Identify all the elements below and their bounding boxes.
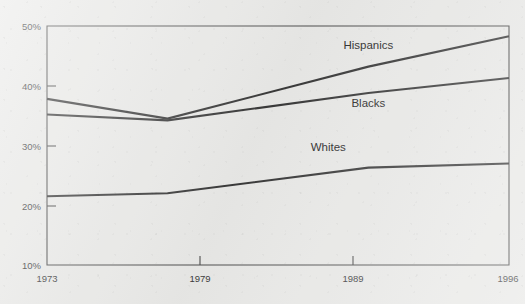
line-chart-figure: 50% 40% 30% 20% 10% 1973 1979 1989 1996 … [0,0,525,304]
x-tick-label-1979: 1979 [189,273,210,284]
y-tick-label-40: 40% [22,81,42,92]
y-axis-ticks [47,86,56,206]
series-label-whites: Whites [311,141,346,153]
y-tick-label-50: 50% [22,21,42,32]
y-tick-label-20: 20% [22,201,42,212]
plot-area-border [47,26,509,265]
series-line-blacks [47,78,509,120]
x-axis-tick-labels: 1973 1979 1989 1996 [36,273,518,284]
series-line-whites [47,163,509,196]
x-tick-label-1973: 1973 [36,273,57,284]
series-label-blacks: Blacks [351,97,385,109]
y-tick-label-30: 30% [22,141,42,152]
chart-canvas: 50% 40% 30% 20% 10% 1973 1979 1989 1996 … [0,0,525,304]
x-tick-label-1996: 1996 [497,273,518,284]
x-tick-label-1989: 1989 [342,273,363,284]
y-axis-tick-labels: 50% 40% 30% 20% 10% [22,21,42,271]
series-label-hispanics: Hispanics [343,39,393,51]
x-axis-ticks [200,256,353,265]
series-lines [47,36,509,196]
y-tick-label-10: 10% [22,260,42,271]
